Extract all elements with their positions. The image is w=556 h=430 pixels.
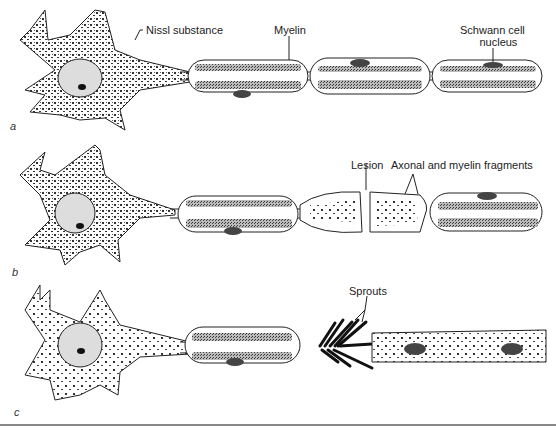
label-axonal-myelin-fragments: Axonal and myelin fragments (391, 159, 533, 171)
label-schwann-cell-nucleus: Schwann cell nucleus (460, 24, 525, 48)
label-myelin: Myelin (274, 24, 306, 36)
cell-body-c (25, 285, 190, 400)
label-sprouts: Sprouts (349, 285, 387, 297)
panel-label-c: c (14, 406, 20, 418)
label-nissl-substance: Nissl substance (146, 24, 223, 36)
neuron-diagram (0, 0, 556, 430)
label-lesion: Lesion (351, 159, 383, 171)
panel-label-b: b (12, 266, 18, 278)
bottom-rule (0, 424, 556, 426)
panel-label-a: a (10, 120, 16, 132)
panel-c-neuron (25, 285, 546, 400)
nucleus-a (58, 59, 102, 97)
axon-sprouts (320, 320, 372, 368)
cell-body-b (20, 145, 175, 265)
nucleus-b (55, 193, 95, 233)
nucleus-c (58, 323, 102, 367)
